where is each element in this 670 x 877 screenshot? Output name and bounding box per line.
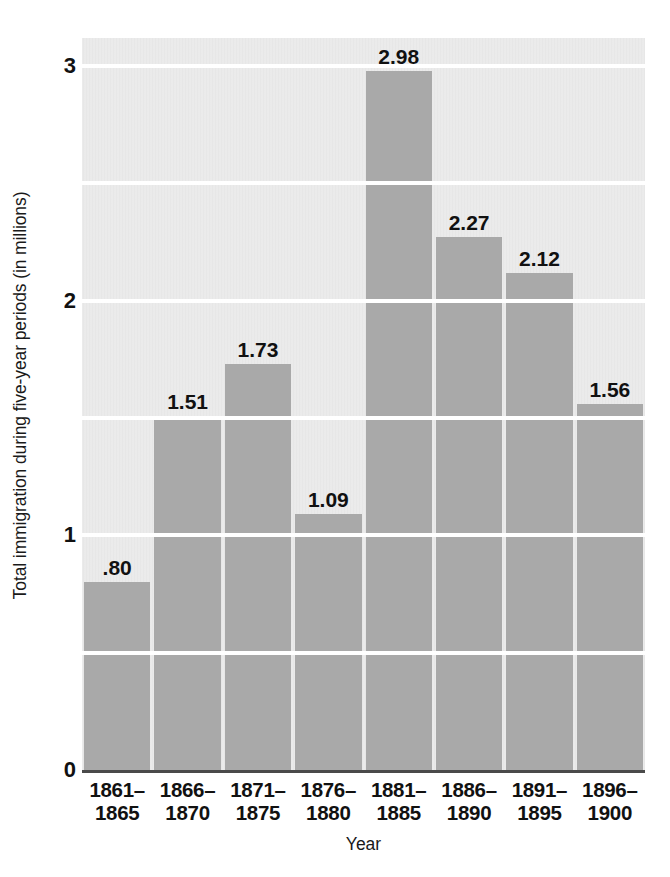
bar[interactable] (436, 237, 502, 770)
x-axis-tick-label-line: 1880 (293, 802, 363, 825)
x-axis-tick-label-line: 1886– (434, 779, 504, 802)
x-axis-tick-label: 1876–1880 (293, 779, 363, 825)
gridline (82, 651, 645, 655)
x-axis-tick-label-line: 1885 (364, 802, 434, 825)
y-axis-tick-label: 3 (46, 55, 76, 77)
gridline (82, 181, 645, 185)
x-axis-tick-label-line: 1866– (152, 779, 222, 802)
gridline (82, 416, 645, 420)
bar[interactable] (295, 514, 361, 770)
bar[interactable] (154, 416, 220, 770)
gridline (82, 533, 645, 537)
x-axis-tick-label-line: 1861– (82, 779, 152, 802)
y-axis-tick-label: 1 (46, 524, 76, 546)
bar-value-label: .80 (82, 557, 152, 578)
bar[interactable] (225, 364, 291, 770)
bar-value-label: 2.12 (504, 248, 574, 269)
y-axis-tick-label: 2 (46, 290, 76, 312)
x-axis-tick-label: 1881–1885 (364, 779, 434, 825)
x-axis-tick-label-line: 1890 (434, 802, 504, 825)
bar-value-label: 1.51 (152, 391, 222, 412)
x-axis-tick-label-line: 1900 (575, 802, 645, 825)
bar-slot: 1.73 (223, 38, 293, 770)
x-axis-tick-label-line: 1895 (504, 802, 574, 825)
y-axis-tick-label: 0 (46, 759, 76, 781)
x-axis-tick-label: 1891–1895 (504, 779, 574, 825)
x-axis-tick-label: 1866–1870 (152, 779, 222, 825)
x-axis-tick-labels: 1861–18651866–18701871–18751876–18801881… (82, 779, 645, 825)
x-axis-tick-label-line: 1871– (223, 779, 293, 802)
x-axis-title: Year (82, 834, 645, 855)
x-axis-tick-label: 1861–1865 (82, 779, 152, 825)
x-axis-tick-label-line: 1876– (293, 779, 363, 802)
x-axis-tick-label: 1871–1875 (223, 779, 293, 825)
x-axis-tick-label-line: 1875 (223, 802, 293, 825)
immigration-bar-chart: Total immigration during five-year perio… (0, 0, 670, 877)
bar[interactable] (506, 273, 572, 770)
x-axis-tick-label-line: 1896– (575, 779, 645, 802)
y-axis-tick-labels: 0123 (42, 0, 76, 877)
bars-group: .801.511.731.092.982.272.121.56 (82, 38, 645, 770)
x-axis-tick-label: 1896–1900 (575, 779, 645, 825)
x-axis-tick-label: 1886–1890 (434, 779, 504, 825)
y-axis-title-container: Total immigration during five-year perio… (0, 0, 42, 790)
bar-slot: 1.51 (152, 38, 222, 770)
bar[interactable] (366, 71, 432, 770)
bar[interactable] (577, 404, 643, 770)
bar-value-label: 1.73 (223, 339, 293, 360)
x-axis-tick-label-line: 1865 (82, 802, 152, 825)
bar-value-label: 1.56 (575, 379, 645, 400)
bar-slot: 1.09 (293, 38, 363, 770)
bar-slot: 2.27 (434, 38, 504, 770)
gridline (82, 64, 645, 68)
y-axis-title: Total immigration during five-year perio… (11, 191, 32, 599)
bar-slot: 1.56 (575, 38, 645, 770)
bar[interactable] (84, 582, 150, 770)
bar-value-label: 1.09 (293, 489, 363, 510)
x-axis-tick-label-line: 1891– (504, 779, 574, 802)
bar-slot: 2.98 (364, 38, 434, 770)
bar-slot: .80 (82, 38, 152, 770)
x-axis-tick-label-line: 1870 (152, 802, 222, 825)
x-axis-line (82, 770, 645, 773)
plot-area: .801.511.731.092.982.272.121.56 (82, 38, 645, 770)
bar-value-label: 2.27 (434, 212, 504, 233)
gridline (82, 299, 645, 303)
bar-slot: 2.12 (504, 38, 574, 770)
x-axis-tick-label-line: 1881– (364, 779, 434, 802)
